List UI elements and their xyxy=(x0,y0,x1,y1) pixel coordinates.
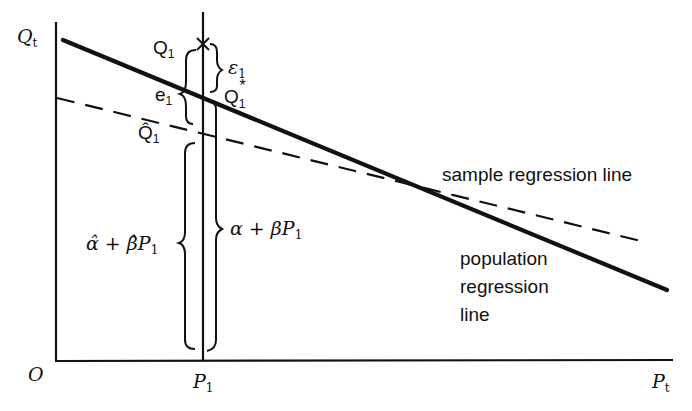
sample-value-brace xyxy=(179,143,195,349)
population-line-label-3: line xyxy=(460,304,490,325)
residual-brace xyxy=(180,50,196,124)
e1-label: e1 xyxy=(155,84,173,108)
sample-value-label: α̂ + β̂P1 xyxy=(86,232,158,257)
sample-line-label: sample regression line xyxy=(442,164,632,185)
x-axis xyxy=(55,360,673,361)
population-value-label: α + βP1 xyxy=(230,217,302,242)
population-value-brace xyxy=(207,101,222,351)
regression-diagram: Qt O P1 Pt Q1 ε1 e1 Q1* Q̂1 α̂ + β̂P1 α … xyxy=(0,0,692,411)
population-line-label-2: regression xyxy=(460,276,549,297)
q1-hat-label: Q̂1 xyxy=(138,122,160,146)
x-axis-label: Pt xyxy=(651,370,670,395)
error-brace xyxy=(210,44,222,92)
x-tick-label-p1: P1 xyxy=(192,370,213,395)
q1-star-label: Q1* xyxy=(224,77,246,111)
origin-label: O xyxy=(28,363,44,385)
y-axis-label: Qt xyxy=(17,25,38,50)
population-line-label-1: population xyxy=(460,248,548,269)
observed-q1-label: Q1 xyxy=(153,37,175,61)
